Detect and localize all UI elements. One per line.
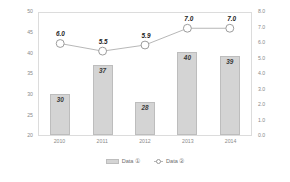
category-tick-label: 2011	[81, 139, 124, 151]
line-marker[interactable]	[183, 24, 191, 32]
line-path-svg	[39, 13, 251, 135]
right-axis-tick: 0.0	[258, 133, 265, 138]
right-axis-tick: 2.0	[258, 102, 265, 107]
category-tick-label: 2013	[166, 139, 209, 151]
line-marker-swatch-icon	[154, 157, 163, 166]
line-marker[interactable]	[141, 41, 149, 49]
line-marker[interactable]	[56, 40, 64, 48]
right-axis-tick: 8.0	[258, 9, 265, 14]
right-axis-tick: 3.0	[258, 87, 265, 92]
chart-container: 50454035302520 8.07.06.05.04.03.02.01.00…	[0, 0, 290, 182]
right-axis-tick: 5.0	[258, 56, 265, 61]
legend-item-data-2[interactable]: Data ②	[154, 157, 184, 166]
right-value-axis: 8.07.06.05.04.03.02.01.00.0	[254, 12, 288, 136]
line-marker[interactable]	[226, 24, 234, 32]
bar-swatch-icon	[106, 159, 119, 164]
left-value-axis: 50454035302520	[2, 12, 36, 136]
left-axis-tick: 30	[27, 92, 33, 97]
right-axis-tick: 1.0	[258, 118, 265, 123]
right-axis-tick: 7.0	[258, 25, 265, 30]
plot-area: 3037284039 6.05.55.97.07.0	[38, 12, 252, 136]
category-tick-label: 2014	[209, 139, 252, 151]
legend-label-data-2: Data ②	[166, 159, 184, 165]
right-axis-tick: 4.0	[258, 71, 265, 76]
category-tick-label: 2010	[38, 139, 81, 151]
left-axis-tick: 20	[27, 133, 33, 138]
category-tick-label: 2012	[124, 139, 167, 151]
legend-item-data-1[interactable]: Data ①	[106, 159, 140, 165]
line-marker[interactable]	[99, 47, 107, 55]
chart-legend: Data ① Data ②	[0, 157, 290, 166]
left-axis-tick: 25	[27, 113, 33, 118]
left-axis-tick: 50	[27, 9, 33, 14]
right-axis-tick: 6.0	[258, 40, 265, 45]
category-axis: 20102011201220132014	[38, 139, 252, 151]
left-axis-tick: 45	[27, 30, 33, 35]
line-series-layer: 6.05.55.97.07.0	[39, 13, 251, 135]
legend-label-data-1: Data ①	[122, 159, 140, 165]
left-axis-tick: 35	[27, 71, 33, 76]
left-axis-tick: 40	[27, 51, 33, 56]
